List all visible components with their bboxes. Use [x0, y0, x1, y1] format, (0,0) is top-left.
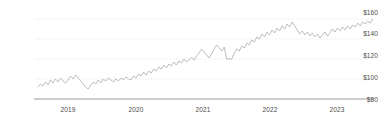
- gridlines: [36, 19, 374, 79]
- line-chart: $160 $140 $120 $100 $80 2019 2020 2021 2…: [0, 0, 378, 123]
- series-line-price: [38, 19, 373, 89]
- chart-plot-area: [0, 0, 378, 123]
- series-price: [38, 19, 373, 89]
